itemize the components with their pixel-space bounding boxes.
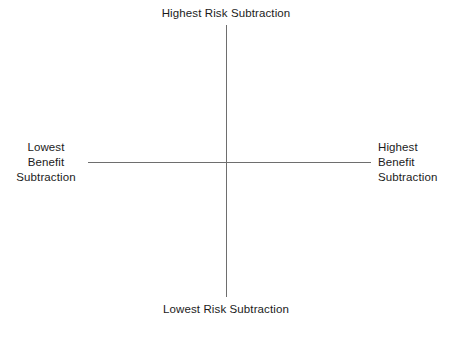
axis-label-left: Lowest Benefit Subtraction bbox=[6, 140, 86, 185]
horizontal-axis-line bbox=[88, 162, 371, 163]
axis-label-right: Highest Benefit Subtraction bbox=[378, 140, 450, 185]
axis-label-top: Highest Risk Subtraction bbox=[0, 6, 452, 21]
vertical-axis-line bbox=[226, 25, 227, 297]
quadrant-diagram-canvas: Highest Risk Subtraction Lowest Risk Sub… bbox=[0, 0, 452, 338]
axis-label-bottom: Lowest Risk Subtraction bbox=[0, 302, 452, 317]
